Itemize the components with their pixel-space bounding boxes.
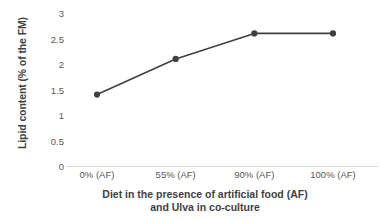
data-point-marker [94,92,100,98]
x-axis-title-line-1: Diet in the presence of artificial food … [102,188,307,200]
y-axis-tick-label: 2 [38,59,64,70]
y-axis-tick-label: 2.5 [38,33,64,44]
x-axis-tick-labels: 0% (AF)55% (AF)90% (AF)100% (AF) [0,169,382,183]
x-axis-tick-label: 100% (AF) [310,169,355,180]
x-axis-tick-label: 0% (AF) [80,169,115,180]
data-point-marker [251,30,257,36]
x-axis-title: Diet in the presence of artificial food … [40,188,370,214]
x-axis-title-line-2: and Ulva in co-culture [40,201,370,214]
data-point-marker [330,30,336,36]
y-axis-title: Lipid content (% of the FM) [10,0,34,168]
series-markers [94,30,336,97]
series-line [97,33,333,94]
data-point-marker [173,56,179,62]
series-line-chart-svg [68,8,374,166]
y-axis-tick-labels: 00.511.522.53 [38,0,64,220]
y-axis-tick-label: 3 [38,8,64,19]
y-axis-tick-label: 1.5 [38,84,64,95]
plot-area [68,8,374,166]
x-axis-line [66,166,378,167]
line-chart: Lipid content (% of the FM) 00.511.522.5… [0,0,382,220]
y-axis-tick-label: 1 [38,110,64,121]
y-axis-tick-label: 0.5 [38,135,64,146]
x-axis-tick-label: 55% (AF) [156,169,196,180]
x-axis-tick-label: 90% (AF) [234,169,274,180]
